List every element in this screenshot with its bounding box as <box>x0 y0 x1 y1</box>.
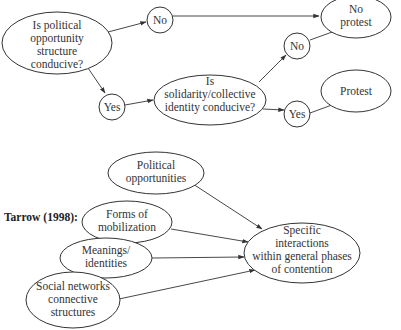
node-label: identity conducive? <box>165 101 255 114</box>
tarrow-heading: Tarrow (1998): <box>4 211 78 224</box>
node-q1-political-opportunity: Is political opportunity structure condu… <box>2 12 112 74</box>
node-label: identities <box>85 257 128 269</box>
node-label: Is political <box>33 19 82 32</box>
edge-q2-to-no <box>259 55 286 82</box>
node-label: mobilization <box>98 221 156 233</box>
node-forms-of-mobilization: Forms of mobilization <box>82 201 172 243</box>
node-label: of contention <box>272 263 333 275</box>
node-label: Yes <box>289 108 306 120</box>
node-yes-bottom: Yes <box>284 101 310 127</box>
node-label: No <box>349 3 363 15</box>
node-political-opportunities: Political opportunities <box>108 152 204 194</box>
node-yes-left: Yes <box>99 94 125 120</box>
node-social-networks: Social networks connective structures <box>26 272 120 328</box>
node-protest: Protest <box>321 70 391 112</box>
node-label: No <box>290 40 304 52</box>
node-label: interactions <box>275 237 329 249</box>
node-label: opportunities <box>126 172 187 185</box>
node-label: solidarity/collective <box>164 88 255 101</box>
node-label: Is <box>206 75 215 87</box>
node-label: Forms of <box>106 208 148 220</box>
node-label: Political <box>137 159 175 171</box>
node-label: Yes <box>104 101 121 113</box>
node-label: Social networks <box>36 280 110 292</box>
node-label: structures <box>51 306 96 318</box>
node-label: Meanings/ <box>82 244 131 257</box>
node-label: connective <box>48 293 98 305</box>
node-no-mid: No <box>284 33 310 59</box>
node-label: opportunity <box>30 32 84 45</box>
node-label: Protest <box>340 85 373 97</box>
edge-q1-to-yes <box>88 68 105 93</box>
node-q2-solidarity: Is solidarity/collective identity conduc… <box>154 75 266 125</box>
node-no-top: No <box>147 7 173 33</box>
node-label: within general phases <box>252 250 352 263</box>
node-no-protest: No protest <box>321 0 391 38</box>
edge-yes-to-q2 <box>125 100 153 105</box>
node-label: conducive? <box>31 58 83 70</box>
node-specific-interactions: Specific interactions within general pha… <box>244 223 360 283</box>
node-label: protest <box>340 16 372 29</box>
edge-social-networks-to-interactions <box>119 270 255 299</box>
diagram-canvas: Is political opportunity structure condu… <box>0 0 401 330</box>
node-label: No <box>153 14 167 26</box>
edge-q2-to-yes <box>263 109 284 110</box>
node-label: structure <box>37 45 77 57</box>
edge-q1-to-no <box>108 22 146 32</box>
edge-forms-to-interactions <box>171 229 248 242</box>
node-label: Specific <box>283 224 321 237</box>
edge-political-opportunities-to-interactions <box>193 184 262 229</box>
edge-meanings-to-interactions <box>152 257 244 258</box>
